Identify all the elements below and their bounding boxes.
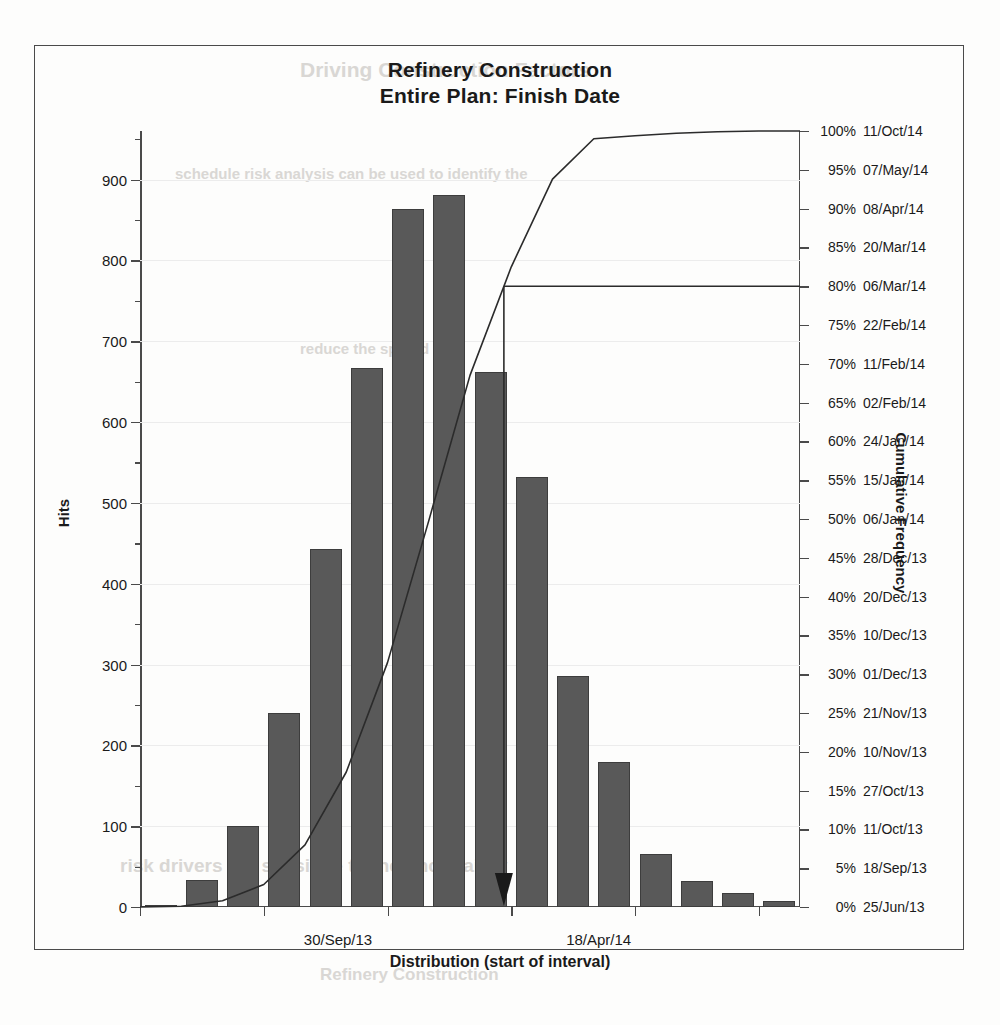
y-tick-major bbox=[131, 503, 140, 504]
cumulative-date: 08/Apr/14 bbox=[863, 201, 924, 217]
y-tick-major bbox=[131, 584, 140, 585]
x-tick bbox=[635, 907, 636, 916]
y-tick-label: 400 bbox=[102, 575, 127, 592]
secondary-y-tick bbox=[800, 907, 809, 908]
y-tick-label: 100 bbox=[102, 818, 127, 835]
secondary-y-tick bbox=[800, 597, 809, 598]
secondary-y-tick-label: 95%07/May/14 bbox=[814, 162, 928, 178]
cumulative-percent: 95% bbox=[814, 162, 856, 178]
chart-title-line-1: Refinery Construction bbox=[0, 57, 1000, 83]
y-tick-label: 600 bbox=[102, 414, 127, 431]
y-tick-label: 900 bbox=[102, 171, 127, 188]
y-tick-label: 800 bbox=[102, 252, 127, 269]
p80-arrow-icon bbox=[495, 873, 513, 906]
cumulative-date: 22/Feb/14 bbox=[863, 317, 926, 333]
cumulative-date: 24/Jan/14 bbox=[863, 433, 925, 449]
secondary-y-tick-label: 85%20/Mar/14 bbox=[814, 239, 926, 255]
secondary-y-tick bbox=[800, 868, 809, 869]
cumulative-date: 25/Jun/13 bbox=[863, 899, 925, 915]
secondary-y-tick bbox=[800, 674, 809, 675]
secondary-y-tick bbox=[800, 713, 809, 714]
secondary-y-tick bbox=[800, 519, 809, 520]
cumulative-percent: 90% bbox=[814, 201, 856, 217]
secondary-y-tick-label: 10%11/Oct/13 bbox=[814, 821, 923, 837]
cumulative-percent: 35% bbox=[814, 627, 856, 643]
cumulative-percent: 50% bbox=[814, 511, 856, 527]
secondary-y-tick bbox=[800, 325, 809, 326]
cumulative-date: 20/Mar/14 bbox=[863, 239, 926, 255]
cumulative-percent: 85% bbox=[814, 239, 856, 255]
secondary-y-tick-label: 50%06/Jan/14 bbox=[814, 511, 925, 527]
secondary-y-tick-label: 75%22/Feb/14 bbox=[814, 317, 926, 333]
y-tick-label: 300 bbox=[102, 656, 127, 673]
cumulative-date: 07/May/14 bbox=[863, 162, 928, 178]
cumulative-date: 21/Nov/13 bbox=[863, 705, 927, 721]
cumulative-date: 11/Oct/13 bbox=[863, 821, 923, 837]
cumulative-date: 10/Dec/13 bbox=[863, 627, 927, 643]
chart-title-line-2: Entire Plan: Finish Date bbox=[0, 83, 1000, 109]
secondary-y-tick bbox=[800, 441, 809, 442]
y-tick-major bbox=[131, 665, 140, 666]
y-tick-label: 0 bbox=[119, 899, 127, 916]
cumulative-percent: 60% bbox=[814, 433, 856, 449]
x-tick-label: 18/Apr/14 bbox=[566, 931, 631, 948]
y-tick-major bbox=[131, 907, 140, 908]
x-axis-title: Distribution (start of interval) bbox=[0, 953, 1000, 971]
secondary-y-tick-label: 35%10/Dec/13 bbox=[814, 627, 927, 643]
cumulative-percent: 25% bbox=[814, 705, 856, 721]
y-tick-major bbox=[131, 422, 140, 423]
secondary-y-tick-label: 15%27/Oct/13 bbox=[814, 783, 924, 799]
cumulative-date: 18/Sep/13 bbox=[863, 860, 927, 876]
secondary-y-tick-label: 30%01/Dec/13 bbox=[814, 666, 927, 682]
cumulative-date: 02/Feb/14 bbox=[863, 395, 926, 411]
cumulative-date: 11/Feb/14 bbox=[863, 356, 925, 372]
chart-title: Refinery Construction Entire Plan: Finis… bbox=[0, 57, 1000, 109]
secondary-y-tick-label: 65%02/Feb/14 bbox=[814, 395, 926, 411]
x-tick-label: 30/Sep/13 bbox=[304, 931, 372, 948]
secondary-y-tick-label: 40%20/Dec/13 bbox=[814, 589, 927, 605]
y-tick-label: 200 bbox=[102, 737, 127, 754]
secondary-y-tick bbox=[800, 286, 809, 287]
cumulative-percent: 0% bbox=[814, 899, 856, 915]
secondary-y-tick bbox=[800, 131, 809, 132]
y-tick-major bbox=[131, 180, 140, 181]
secondary-y-tick bbox=[800, 752, 809, 753]
y-tick-label: 700 bbox=[102, 333, 127, 350]
secondary-y-tick-label: 5%18/Sep/13 bbox=[814, 860, 927, 876]
y-tick-label: 500 bbox=[102, 494, 127, 511]
secondary-y-tick bbox=[800, 791, 809, 792]
cumulative-date: 06/Mar/14 bbox=[863, 278, 926, 294]
cumulative-percent: 100% bbox=[814, 123, 856, 139]
secondary-y-tick bbox=[800, 364, 809, 365]
cumulative-date: 20/Dec/13 bbox=[863, 589, 927, 605]
secondary-y-tick-label: 45%28/Dec/13 bbox=[814, 550, 927, 566]
cumulative-percent: 75% bbox=[814, 317, 856, 333]
y-tick-major bbox=[131, 745, 140, 746]
cumulative-percent: 40% bbox=[814, 589, 856, 605]
plot-area: 0100200300400500600700800900 100%11/Oct/… bbox=[140, 131, 800, 907]
cumulative-percent: 15% bbox=[814, 783, 856, 799]
cumulative-percent: 55% bbox=[814, 472, 856, 488]
secondary-y-tick-label: 80%06/Mar/14 bbox=[814, 278, 926, 294]
cumulative-percent: 80% bbox=[814, 278, 856, 294]
y-axis-title: Hits bbox=[55, 498, 72, 526]
cumulative-percent: 45% bbox=[814, 550, 856, 566]
cumulative-date: 15/Jan/14 bbox=[863, 472, 925, 488]
secondary-y-tick bbox=[800, 635, 809, 636]
cumulative-date: 11/Oct/14 bbox=[863, 123, 923, 139]
y-tick-major bbox=[131, 341, 140, 342]
secondary-y-tick-label: 100%11/Oct/14 bbox=[814, 123, 923, 139]
secondary-y-tick-label: 90%08/Apr/14 bbox=[814, 201, 924, 217]
secondary-y-tick bbox=[800, 558, 809, 559]
x-tick bbox=[388, 907, 389, 916]
cumulative-percent: 70% bbox=[814, 356, 856, 372]
cumulative-percent: 65% bbox=[814, 395, 856, 411]
secondary-y-tick bbox=[800, 209, 809, 210]
secondary-y-tick-label: 20%10/Nov/13 bbox=[814, 744, 927, 760]
cumulative-percent: 30% bbox=[814, 666, 856, 682]
secondary-y-tick-label: 25%21/Nov/13 bbox=[814, 705, 927, 721]
cumulative-date: 28/Dec/13 bbox=[863, 550, 927, 566]
x-tick bbox=[759, 907, 760, 916]
secondary-y-tick bbox=[800, 480, 809, 481]
y-tick-major bbox=[131, 826, 140, 827]
